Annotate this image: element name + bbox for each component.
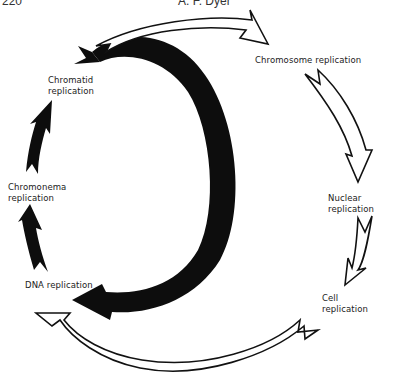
label-chromosome-replication: Chromosome replication: [255, 55, 361, 66]
outline-arrow-to-cell: [345, 216, 372, 285]
label-chromonema-replication: Chromonema replication: [8, 182, 66, 204]
label-cell-replication: Cell replication: [322, 293, 368, 315]
label-chromatid-replication: Chromatid replication: [48, 75, 94, 97]
large-black-arc-arrow: [72, 37, 236, 320]
label-nuclear-replication: Nuclear replication: [328, 193, 407, 215]
black-arrow-chromonema-to-chromatid: [26, 100, 52, 174]
outline-arrow-to-nuclear: [305, 70, 372, 182]
outline-arrow-to-dna: [36, 313, 318, 371]
label-dna-replication: DNA replication: [25, 280, 93, 291]
black-arrow-dna-to-chromonema: [18, 204, 48, 272]
